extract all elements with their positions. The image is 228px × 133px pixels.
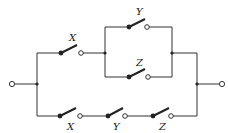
junctions (35, 51, 198, 85)
switch-lower-y (106, 108, 128, 118)
label-lower-z: Z (158, 121, 167, 132)
junction-dot (103, 51, 106, 54)
junction-dot (170, 51, 173, 54)
output-terminal (219, 81, 224, 86)
label-upper-x: X (68, 32, 77, 43)
circuit-diagram: X Y Z X Y Z (0, 0, 228, 133)
wires (15, 27, 219, 116)
switch-block-z (127, 69, 151, 79)
label-block-z: Z (135, 57, 144, 68)
switch-lower-x (58, 108, 83, 118)
switch-lower-z (151, 108, 174, 118)
switch-upper-x (59, 45, 84, 55)
label-lower-x: X (66, 121, 75, 132)
label-lower-y: Y (113, 121, 121, 132)
label-block-y: Y (136, 6, 144, 17)
junction-dot (195, 82, 198, 85)
circuit-svg: X Y Z X Y Z (0, 0, 228, 133)
junction-dot (35, 82, 38, 85)
switch-block-y (127, 19, 150, 29)
input-terminal (9, 81, 14, 86)
